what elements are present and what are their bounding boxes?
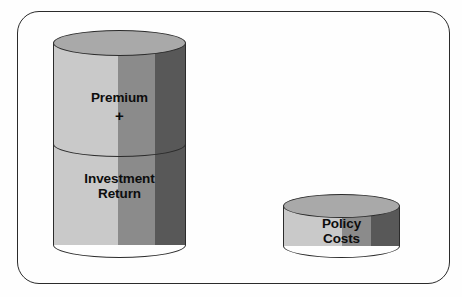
investment-return-cylinder-wall <box>53 144 186 245</box>
stacked-cylinder-premium-investment-return: Premium Investment Return <box>53 30 186 258</box>
investment-return-right-outline <box>185 144 186 245</box>
premium-top-ellipse-cap <box>53 30 186 56</box>
shading-band-dark <box>155 43 186 144</box>
policy-costs-right-outline <box>399 206 400 246</box>
premium-cylinder-wall <box>53 43 186 144</box>
plus-operator-symbol: + <box>53 108 186 123</box>
premium-right-outline <box>185 43 186 144</box>
shading-band-mid <box>118 43 155 144</box>
shading-band-light <box>53 144 118 245</box>
investment-return-shading-bands <box>53 144 186 245</box>
premium-shading-bands <box>53 43 186 144</box>
cylinder-policy-costs: Policy Costs <box>283 194 400 258</box>
premium-left-outline <box>53 43 54 144</box>
shading-band-light <box>53 43 118 144</box>
policy-costs-left-outline <box>283 206 284 246</box>
investment-return-left-outline <box>53 144 54 245</box>
shading-band-mid <box>118 144 155 245</box>
policy-costs-top-ellipse-cap <box>283 194 400 218</box>
shading-band-dark <box>155 144 186 245</box>
diagram-canvas: Premium Investment Return + Policy Costs <box>0 0 462 297</box>
